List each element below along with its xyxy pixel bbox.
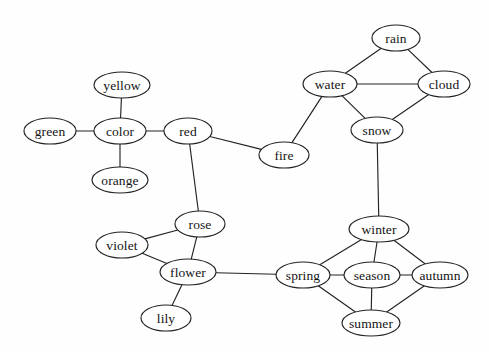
node-color[interactable]: color xyxy=(94,118,146,144)
edge-rose-violet xyxy=(145,230,178,239)
node-label-rose: rose xyxy=(189,217,212,232)
node-label-orange: orange xyxy=(101,173,138,188)
node-autumn[interactable]: autumn xyxy=(412,262,468,288)
edge-winter-spring xyxy=(320,240,362,265)
node-snow[interactable]: snow xyxy=(351,117,403,143)
nodes-layer: yellowgreencolororangeredfirewaterraincl… xyxy=(24,25,470,336)
node-label-spring: spring xyxy=(286,268,320,283)
edge-water-snow xyxy=(342,96,365,119)
node-label-green: green xyxy=(35,124,66,139)
edge-red-rose xyxy=(190,144,199,211)
node-label-summer: summer xyxy=(349,316,393,331)
node-label-autumn: autumn xyxy=(419,268,460,283)
node-label-season: season xyxy=(354,268,391,283)
edge-winter-season xyxy=(374,242,377,262)
node-summer[interactable]: summer xyxy=(342,310,400,336)
edge-winter-autumn xyxy=(394,240,425,264)
node-green[interactable]: green xyxy=(24,118,76,144)
edge-violet-flower xyxy=(142,253,167,263)
semantic-network-diagram: yellowgreencolororangeredfirewaterraincl… xyxy=(0,0,489,352)
node-spring[interactable]: spring xyxy=(276,262,330,288)
node-label-winter: winter xyxy=(361,222,396,237)
node-label-snow: snow xyxy=(363,123,392,138)
node-label-lily: lily xyxy=(157,311,176,326)
node-violet[interactable]: violet xyxy=(96,232,148,258)
node-rose[interactable]: rose xyxy=(175,211,225,237)
node-winter[interactable]: winter xyxy=(349,216,409,242)
node-label-red: red xyxy=(179,124,197,139)
node-lily[interactable]: lily xyxy=(141,305,191,331)
edge-water-rain xyxy=(345,48,381,73)
node-cloud[interactable]: cloud xyxy=(418,71,470,97)
node-label-yellow: yellow xyxy=(103,78,140,93)
edge-red-fire xyxy=(210,136,262,149)
edge-rose-flower xyxy=(191,237,197,259)
node-fire[interactable]: fire xyxy=(259,142,309,168)
node-label-fire: fire xyxy=(274,148,293,163)
node-label-violet: violet xyxy=(106,238,137,253)
edge-fire-water xyxy=(292,96,322,142)
node-flower[interactable]: flower xyxy=(160,259,216,285)
node-label-rain: rain xyxy=(385,31,407,46)
edge-flower-lily xyxy=(172,285,182,306)
edge-snow-winter xyxy=(377,143,378,216)
edge-spring-summer xyxy=(318,286,355,312)
node-label-flower: flower xyxy=(170,265,206,280)
node-season[interactable]: season xyxy=(344,262,400,288)
edge-yellow-color xyxy=(121,98,122,118)
node-rain[interactable]: rain xyxy=(372,25,420,51)
graph-canvas: yellowgreencolororangeredfirewaterraincl… xyxy=(0,0,489,352)
node-label-color: color xyxy=(106,124,135,139)
edge-summer-autumn xyxy=(387,286,425,312)
edge-rain-cloud xyxy=(408,49,432,72)
edge-cloud-snow xyxy=(392,95,428,120)
edge-flower-spring xyxy=(216,273,276,275)
node-red[interactable]: red xyxy=(164,118,212,144)
node-orange[interactable]: orange xyxy=(92,167,148,193)
node-label-cloud: cloud xyxy=(429,77,460,92)
node-yellow[interactable]: yellow xyxy=(94,72,150,98)
node-label-water: water xyxy=(315,77,346,92)
node-water[interactable]: water xyxy=(303,71,357,97)
